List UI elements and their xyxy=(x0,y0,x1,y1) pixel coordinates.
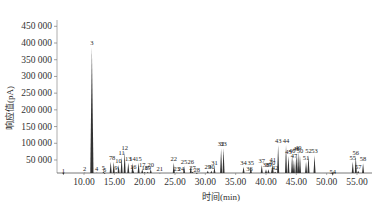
peak-label: 41 xyxy=(269,156,276,163)
peak-label: 3 xyxy=(90,39,93,46)
x-tick-label: 15.00 xyxy=(104,177,126,187)
y-axis: 50 000100 000150 000200 000250 000300 00… xyxy=(21,20,57,173)
y-tick-label: 300 000 xyxy=(21,71,52,81)
peak xyxy=(147,172,149,173)
peak-label: 36 xyxy=(246,165,253,172)
peak-label: 44 xyxy=(283,137,290,144)
x-tick-label: 55.00 xyxy=(346,177,368,187)
peak xyxy=(267,169,269,173)
peak xyxy=(274,172,276,173)
peak-label: 33 xyxy=(220,140,227,147)
peak xyxy=(207,171,209,173)
peak-label: 12 xyxy=(121,144,128,151)
peak xyxy=(362,163,364,173)
peak xyxy=(210,171,212,173)
peak-label: 22 xyxy=(171,155,178,162)
peak-label: 42 xyxy=(272,164,279,171)
peak-label: 9 xyxy=(115,164,118,171)
y-tick-label: 200 000 xyxy=(21,105,52,115)
peak xyxy=(293,160,295,173)
peak xyxy=(220,148,222,173)
y-tick-label: 100 000 xyxy=(21,138,52,148)
y-tick-label: 150 000 xyxy=(21,122,52,132)
peak xyxy=(287,156,289,173)
peak-label: 25 xyxy=(181,158,188,165)
x-tick-label: 30.00 xyxy=(195,177,217,187)
peak-label: 53 xyxy=(311,147,318,154)
peak xyxy=(265,169,267,173)
x-tick-label: 20.00 xyxy=(134,177,156,187)
peak xyxy=(90,47,93,173)
peak-label: 28 xyxy=(194,166,201,173)
peak xyxy=(305,162,307,173)
peak-label: 1 xyxy=(62,167,65,174)
chromatogram-chart: 50 000100 000150 000200 000250 000300 00… xyxy=(0,0,389,208)
chromatogram-trace xyxy=(62,47,364,176)
peak xyxy=(144,172,146,173)
peak-label: 6 xyxy=(103,166,107,173)
x-tick-label: 25.00 xyxy=(164,177,186,187)
peak xyxy=(110,162,112,173)
y-tick-label: 400 000 xyxy=(21,38,52,48)
x-tick-label: 45.00 xyxy=(286,177,308,187)
y-tick-label: 50 000 xyxy=(26,155,52,165)
peak-label: 10 xyxy=(115,157,122,164)
peak-label: 4 xyxy=(95,165,99,172)
peak-label: 57 xyxy=(355,163,362,170)
peak-label: 20 xyxy=(147,161,154,168)
peak xyxy=(299,155,301,173)
x-axis-label: 时间(min) xyxy=(202,191,240,202)
y-tick-label: 250 000 xyxy=(21,88,52,98)
peak-label: 24 xyxy=(178,165,185,172)
peak xyxy=(352,162,354,173)
peak-label: 43 xyxy=(275,137,282,144)
peak-label: 56 xyxy=(353,149,360,156)
peak xyxy=(196,173,198,174)
peak-label: 54 xyxy=(329,168,336,175)
peak-label: 58 xyxy=(360,155,367,162)
y-tick-label: 450 000 xyxy=(21,21,52,31)
peak xyxy=(118,165,120,173)
peak xyxy=(357,171,359,173)
peak xyxy=(223,148,225,173)
peak-label: 51 xyxy=(303,154,310,161)
peak xyxy=(243,167,245,173)
peak-label: 21 xyxy=(157,165,164,172)
peak xyxy=(297,152,299,173)
peak xyxy=(115,172,117,173)
peak-labels: 1234567891011121314151617181920212223242… xyxy=(62,39,367,175)
y-tick-label: 350 000 xyxy=(21,55,52,65)
peak-label: 16 xyxy=(130,163,137,170)
x-axis: 10.0015.0020.0025.0030.0035.0040.0045.00… xyxy=(57,173,372,187)
x-tick-label: 40.00 xyxy=(255,177,277,187)
x-tick-label: 10.00 xyxy=(73,177,95,187)
peak-label: 2 xyxy=(83,165,86,172)
x-tick-label: 35.00 xyxy=(225,177,247,187)
x-tick-label: 50.00 xyxy=(316,177,338,187)
peak-label: 31 xyxy=(211,159,218,166)
peak xyxy=(104,173,106,174)
peak xyxy=(314,155,316,173)
y-axis-label: 响应值(pA) xyxy=(4,86,15,130)
